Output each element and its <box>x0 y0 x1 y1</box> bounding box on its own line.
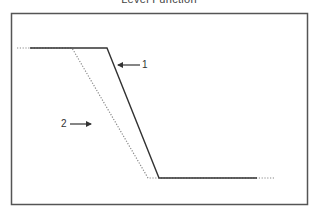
label-1: 1 <box>142 59 148 70</box>
diagram-frame <box>12 14 308 205</box>
level-function-diagram: 1 2 <box>0 0 318 217</box>
label-2: 2 <box>61 118 67 129</box>
